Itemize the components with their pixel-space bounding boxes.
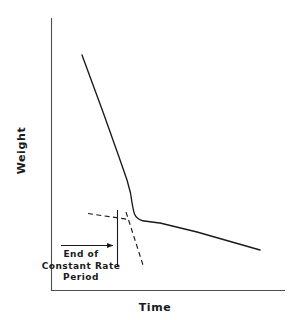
y-axis-label: Weight [15,121,28,181]
x-axis-label: Time [115,301,195,314]
annotation-line-3: Period [36,272,126,284]
constant-rate-tangent-dashed [88,214,129,220]
chart-figure: Weight Time End of Constant Rate Period [0,0,298,320]
annotation-line-1: End of [36,249,126,261]
annotation-end-of-constant-rate-period: End of Constant Rate Period [36,249,126,284]
drying-curve-line [82,55,260,250]
annotation-line-2: Constant Rate [36,261,126,273]
